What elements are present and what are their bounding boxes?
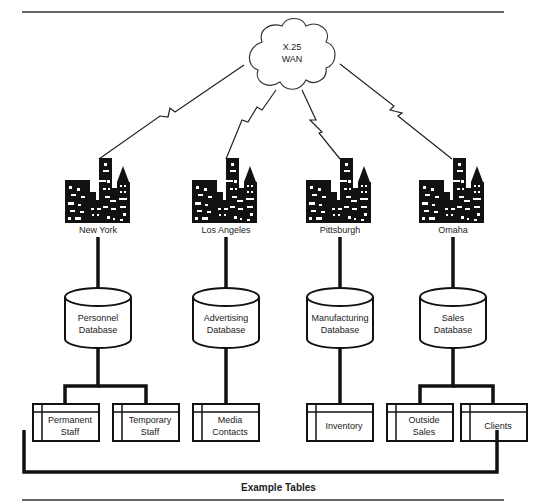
- table-label-line1: Outside: [392, 414, 456, 426]
- database-suffix: Database: [413, 324, 493, 336]
- city-icon-los-angeles: [192, 158, 257, 223]
- database-suffix: Database: [58, 324, 138, 336]
- city-label-los-angeles: Los Angeles: [186, 224, 266, 236]
- city-icon-pittsburgh: [306, 158, 371, 223]
- table-label-line2: Staff: [118, 426, 182, 438]
- table-label-line1: Media: [198, 414, 262, 426]
- table-label-temporary-staff: Temporary Staff: [118, 414, 182, 438]
- link-omaha: [340, 64, 452, 159]
- table-label-line1: Permanent: [38, 414, 102, 426]
- diagram-caption: Example Tables: [0, 482, 557, 493]
- wan-label-line2: WAN: [262, 53, 322, 65]
- wan-label-line1: X.25: [262, 41, 322, 53]
- link-new-york: [99, 65, 244, 159]
- table-label-line1: Temporary: [118, 414, 182, 426]
- table-label-clients: Clients: [466, 420, 530, 432]
- city-label-omaha: Omaha: [413, 224, 493, 236]
- city-label-new-york: New York: [58, 224, 138, 236]
- table-label-permanent-staff: Permanent Staff: [38, 414, 102, 438]
- city-label-pittsburgh: Pittsburgh: [300, 224, 380, 236]
- database-suffix: Database: [186, 324, 266, 336]
- connector-personnel-permanent: [65, 348, 98, 406]
- database-name: Manufacturing: [300, 312, 380, 324]
- city-icon-new-york: [65, 158, 130, 223]
- table-label-line1: Inventory: [312, 420, 376, 432]
- table-label-inventory: Inventory: [312, 420, 376, 432]
- link-los-angeles: [226, 90, 276, 159]
- table-label-outside-sales: Outside Sales: [392, 414, 456, 438]
- database-suffix: Database: [300, 324, 380, 336]
- database-label-advertising: Advertising Database: [186, 312, 266, 336]
- table-label-line2: Sales: [392, 426, 456, 438]
- database-name: Advertising: [186, 312, 266, 324]
- wan-label: X.25 WAN: [262, 41, 322, 65]
- database-label-manufacturing: Manufacturing Database: [300, 312, 380, 336]
- city-icon-omaha: [419, 158, 484, 223]
- table-label-line1: Clients: [466, 420, 530, 432]
- link-pittsburgh: [302, 90, 340, 159]
- database-label-sales: Sales Database: [413, 312, 493, 336]
- table-label-line2: Contacts: [198, 426, 262, 438]
- table-label-media-contacts: Media Contacts: [198, 414, 262, 438]
- connector-sales-outside: [420, 348, 453, 406]
- table-label-line2: Staff: [38, 426, 102, 438]
- database-name: Sales: [413, 312, 493, 324]
- database-name: Personnel: [58, 312, 138, 324]
- database-label-personnel: Personnel Database: [58, 312, 138, 336]
